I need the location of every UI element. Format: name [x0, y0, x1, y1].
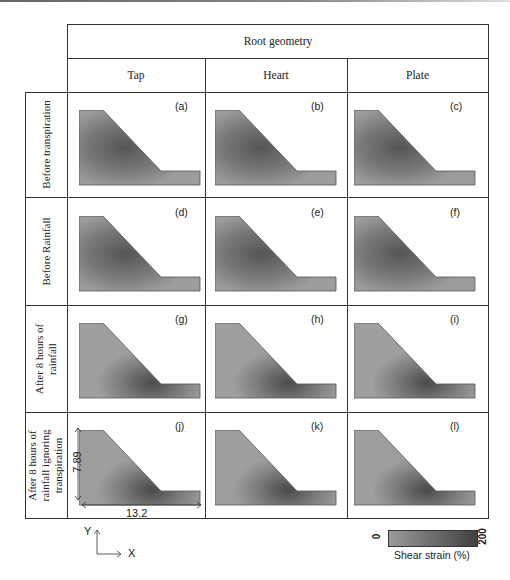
dimension-arrows	[70, 424, 210, 519]
colorbar	[388, 530, 478, 547]
slope-shape	[354, 430, 476, 506]
slope-shape	[215, 110, 337, 186]
strain-panel-d	[79, 216, 201, 292]
panel-label-d: (d)	[175, 206, 188, 218]
strain-panel-i	[354, 323, 476, 399]
height-dimension: 7.89	[71, 451, 83, 472]
x-axis-label: X	[128, 547, 135, 559]
panel-label-g: (g)	[175, 313, 188, 325]
slope-shape	[354, 323, 476, 399]
slope-shape	[215, 216, 337, 292]
strain-panel-h	[215, 323, 337, 399]
y-axis-label: Y	[84, 525, 91, 537]
panel-label-a: (a)	[175, 100, 188, 112]
strain-panel-l	[354, 430, 476, 506]
slope-shape	[215, 430, 337, 506]
column-header-plate: Plate	[347, 58, 488, 92]
strain-panel-g	[79, 323, 201, 399]
panel-label-i: (i)	[450, 313, 459, 325]
panel-label-l: (l)	[450, 420, 459, 432]
colorbar-min: 0	[371, 534, 382, 540]
strain-panel-f	[354, 216, 476, 292]
row-label-after-8h-rainfall: After 8 hours of rainfall	[25, 305, 67, 412]
slope-shape	[354, 110, 476, 186]
column-header-tap: Tap	[67, 58, 205, 92]
panel-label-f: (f)	[450, 206, 460, 218]
row-label-after-8h-ignoring-transpiration: After 8 hours of rainfall ignoring trans…	[25, 412, 67, 518]
colorbar-label: Shear strain (%)	[394, 549, 470, 561]
slope-shape	[215, 323, 337, 399]
panel-label-e: (e)	[311, 206, 324, 218]
panel-label-c: (c)	[450, 100, 462, 112]
strain-panel-k	[215, 430, 337, 506]
panel-label-b: (b)	[311, 100, 324, 112]
column-header-heart: Heart	[205, 58, 347, 92]
slope-shape	[79, 110, 201, 186]
panel-label-h: (h)	[311, 313, 324, 325]
strain-panel-c	[354, 110, 476, 186]
width-dimension: 13.2	[126, 507, 147, 519]
slope-shape	[79, 216, 201, 292]
row-label-before-rainfall: Before Rainfall	[25, 197, 67, 305]
root-geometry-header: Root geometry	[67, 24, 489, 58]
colorbar-max: 200	[477, 528, 488, 545]
strain-panel-b	[215, 110, 337, 186]
slope-shape	[79, 323, 201, 399]
strain-panel-e	[215, 216, 337, 292]
strain-panel-a	[79, 110, 201, 186]
slope-shape	[354, 216, 476, 292]
top-rule	[0, 0, 510, 2]
panel-label-k: (k)	[311, 420, 323, 432]
row-label-before-transpiration: Before transpiration	[25, 92, 67, 197]
axis-indicator-icon	[92, 528, 132, 558]
